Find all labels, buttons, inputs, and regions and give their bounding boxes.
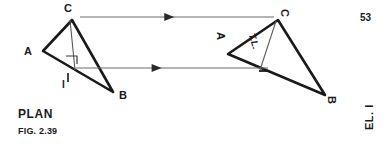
plan-view-group (43, 20, 113, 92)
elevation-view-group (228, 20, 325, 95)
plan-view-caption: PLAN (18, 108, 53, 120)
elevation-vertex-label-c: C (279, 9, 290, 17)
plan-internal-edge-ci (70, 20, 75, 70)
plan-triangle-abc (43, 20, 113, 92)
page-number: 53 (360, 13, 371, 23)
elevation-vertex-label-b: B (326, 96, 337, 104)
technical-drawing-canvas (0, 0, 387, 147)
projector-ab-arrowhead-icon (152, 64, 162, 72)
right-angle-marker-icon (66, 56, 77, 64)
projector-c-arrowhead-icon (164, 13, 174, 21)
plan-fold-line-label-i: I (62, 80, 65, 90)
elevation-triangle-abc (228, 20, 325, 95)
plan-vertex-label-c: C (64, 3, 72, 14)
plan-vertex-label-a: A (24, 46, 32, 57)
elevation-view-caption: EL. I (364, 104, 375, 130)
figure-container: A B C I A B C T.L. PLAN FIG. 2.39 53 EL.… (0, 0, 387, 147)
elevation-vertex-label-a: A (215, 32, 226, 40)
figure-number-caption: FIG. 2.39 (18, 127, 57, 136)
plan-vertex-label-b: B (119, 90, 127, 101)
